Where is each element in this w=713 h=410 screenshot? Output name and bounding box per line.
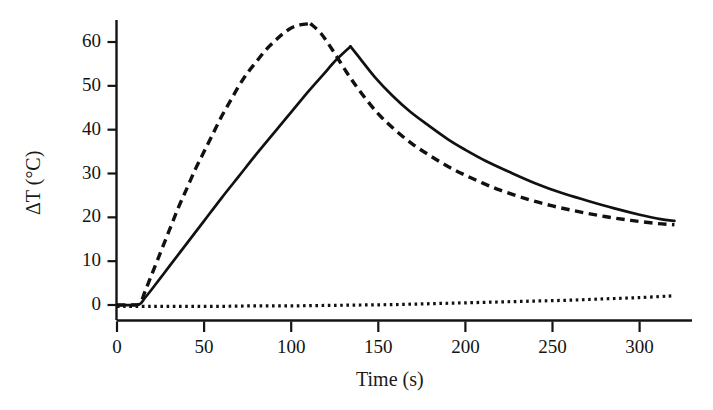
- y-tick-label: 0: [57, 293, 101, 315]
- x-axis-label: Time (s): [356, 368, 424, 391]
- y-tick-label: 40: [57, 118, 101, 140]
- y-tick-label: 20: [57, 205, 101, 227]
- series-line-dashed-curve: [117, 24, 310, 305]
- series-line-dotted-baseline: [117, 296, 674, 307]
- y-axis-label: ΔT (°C): [22, 151, 45, 215]
- x-tick-label: 200: [440, 336, 490, 358]
- tick-marks: [108, 42, 640, 332]
- y-tick-label: 50: [57, 74, 101, 96]
- series-line-solid-curve: [117, 46, 350, 305]
- x-tick-label: 50: [179, 336, 229, 358]
- x-tick-label: 300: [615, 336, 665, 358]
- y-tick-label: 30: [57, 162, 101, 184]
- x-tick-label: 0: [92, 336, 142, 358]
- chart-figure: 0102030405060050100150200250300 ΔT (°C) …: [0, 0, 713, 410]
- y-tick-label: 60: [57, 30, 101, 52]
- x-tick-label: 150: [353, 336, 403, 358]
- x-tick-label: 100: [266, 336, 316, 358]
- x-tick-label: 250: [528, 336, 578, 358]
- series-line-dashed-curve: [310, 24, 674, 225]
- y-tick-label: 10: [57, 249, 101, 271]
- data-series-group: [117, 24, 674, 307]
